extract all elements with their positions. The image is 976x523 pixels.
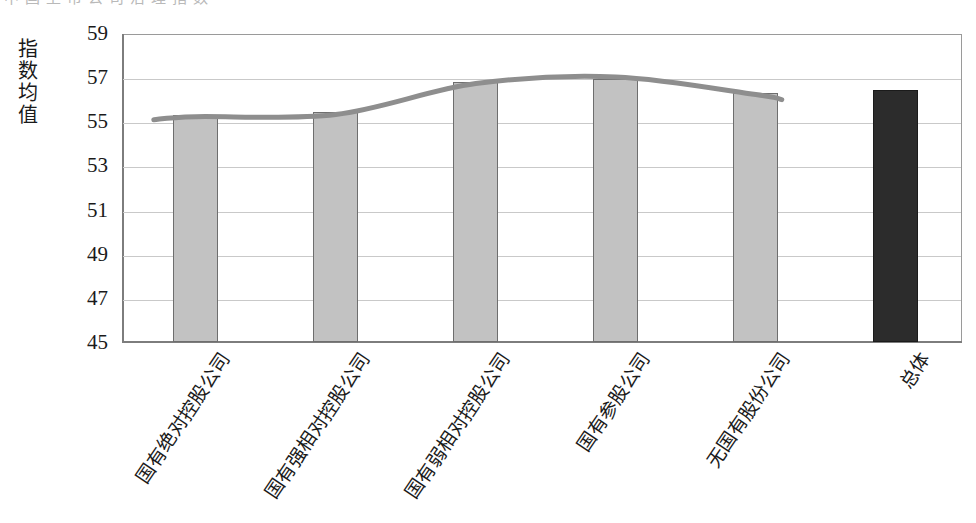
x-category-label: 国有绝对控股公司: [132, 349, 235, 487]
chart-figure: 中国上市公司治理指数 指数均值 4547495153555759 国有绝对控股公…: [0, 0, 976, 523]
y-tick-label: 51: [87, 200, 108, 221]
x-category-label: 国有强相对控股公司: [261, 349, 375, 503]
gridline: [123, 79, 961, 80]
bar-1: [173, 115, 218, 342]
x-category-label: 无国有股份公司: [702, 349, 795, 472]
x-category-label: 总体: [896, 349, 935, 393]
top-cut-text: 中国上市公司治理指数: [0, 0, 976, 4]
y-axis-line: [122, 34, 124, 343]
y-tick-label: 53: [87, 155, 108, 176]
y-tick-label: 59: [87, 23, 108, 44]
bar-5: [733, 93, 778, 342]
bar-4: [593, 79, 638, 342]
y-tick-label: 57: [87, 67, 108, 88]
gridline: [123, 212, 961, 213]
bar-6: [873, 90, 918, 342]
x-axis-category-labels: 国有绝对控股公司国有强相对控股公司国有弱相对控股公司国有参股公司无国有股份公司总…: [122, 343, 962, 523]
gridline: [123, 123, 961, 124]
y-tick-label: 47: [87, 288, 108, 309]
plot-area: [122, 34, 962, 343]
y-tick-label: 45: [87, 332, 108, 353]
x-category-label: 国有参股公司: [573, 349, 655, 456]
x-category-label: 国有弱相对控股公司: [401, 349, 515, 503]
y-axis-title: 指数均值: [10, 38, 38, 126]
bar-2: [313, 112, 358, 342]
y-axis-tick-labels: 4547495153555759: [52, 0, 116, 523]
trend-line: [123, 35, 963, 344]
top-cut-text-strip: 中国上市公司治理指数: [0, 0, 976, 12]
y-tick-label: 55: [87, 111, 108, 132]
y-tick-label: 49: [87, 244, 108, 265]
bar-3: [453, 82, 498, 342]
gridline: [123, 256, 961, 257]
gridline: [123, 167, 961, 168]
gridline: [123, 300, 961, 301]
